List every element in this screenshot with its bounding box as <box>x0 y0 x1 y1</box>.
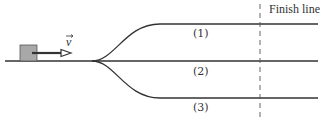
velocity-arrow <box>32 50 71 57</box>
finish-label: Finish line <box>269 2 320 16</box>
track-1-label: (1) <box>193 27 209 40</box>
track-3-label: (3) <box>193 101 209 114</box>
race-track-diagram: v Finish line (1) (2) (3) <box>0 0 320 120</box>
track-2-label: (2) <box>193 65 209 78</box>
